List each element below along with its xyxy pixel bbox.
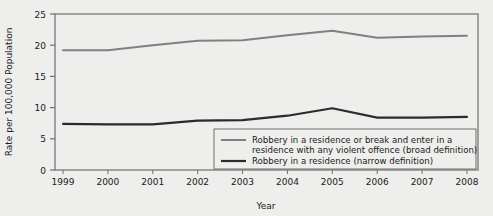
x-tick-label: 2002	[186, 177, 209, 187]
x-tick-label: 2006	[366, 177, 389, 187]
x-tick-label: 1999	[52, 177, 75, 187]
y-tick-label: 5	[40, 134, 46, 144]
x-tick-label: 2008	[456, 177, 479, 187]
x-tick-label: 2005	[321, 177, 344, 187]
legend-label-broad-line1: Robbery in a residence or break and ente…	[252, 135, 452, 145]
x-tick-label: 2001	[141, 177, 164, 187]
legend-label-narrow-line1: Robbery in a residence (narrow definitio…	[252, 156, 433, 166]
y-tick-label: 10	[35, 103, 47, 113]
legend-label-broad-line2: residence with any violent offence (broa…	[252, 145, 477, 155]
x-tick-label: 2007	[411, 177, 434, 187]
x-axis-title: Year	[255, 201, 275, 211]
x-tick-label: 2004	[276, 177, 299, 187]
x-tick-label: 2003	[231, 177, 254, 187]
y-axis-title: Rate per 100,000 Population	[4, 28, 14, 157]
y-tick-label: 20	[35, 41, 47, 51]
chart-screenshot: 0510152025 19992000200120022003200420052…	[0, 0, 493, 216]
y-tick-label: 25	[35, 10, 46, 20]
y-tick-label: 0	[40, 166, 46, 176]
y-tick-label: 15	[35, 72, 46, 82]
line-chart: 0510152025 19992000200120022003200420052…	[0, 0, 493, 216]
x-tick-label: 2000	[96, 177, 119, 187]
chart-legend: Robbery in a residence or break and ente…	[214, 129, 477, 169]
